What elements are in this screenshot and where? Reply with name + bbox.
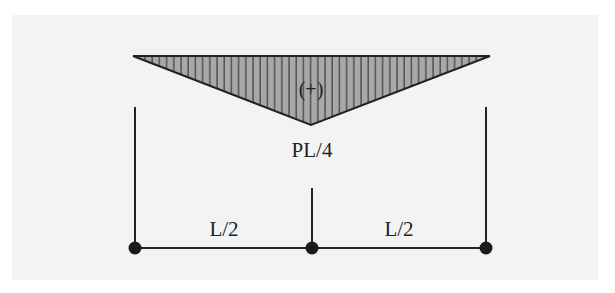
right-support-node: [480, 242, 493, 255]
right-span-label: L/2: [384, 217, 413, 241]
left-support-node: [129, 242, 142, 255]
mid-point-node: [306, 242, 319, 255]
peak-value-label: PL/4: [292, 138, 333, 162]
left-span-label: L/2: [209, 217, 238, 241]
sign-label: (+): [299, 78, 324, 101]
bending-moment-diagram: (+) PL/4 L/2 L/2: [0, 0, 615, 293]
